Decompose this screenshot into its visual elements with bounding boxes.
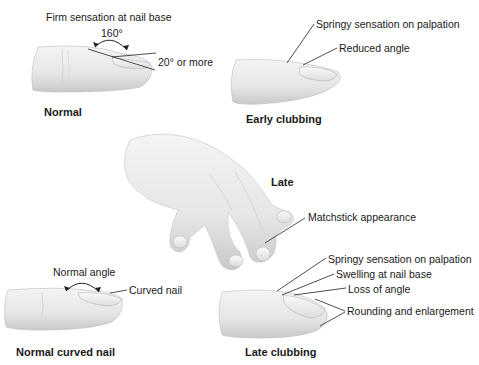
label-springy-sensation-late: Springy sensation on palpation (328, 253, 472, 265)
early-clubbing-finger (231, 24, 340, 104)
label-reduced-angle: Reduced angle (339, 42, 410, 54)
label-springy-sensation-early: Springy sensation on palpation (316, 18, 460, 30)
caption-early-clubbing: Early clubbing (246, 113, 322, 126)
late-clubbing-finger (219, 258, 346, 338)
label-rounding-enlargement: Rounding and enlargement (347, 305, 474, 317)
caption-normal: Normal (44, 106, 82, 119)
label-curved-nail: Curved nail (129, 284, 182, 296)
label-loss-of-angle: Loss of angle (348, 283, 410, 295)
normal-curved-finger (4, 283, 127, 330)
label-swelling-nail-base: Swelling at nail base (336, 268, 432, 280)
caption-late-clubbing: Late clubbing (245, 346, 317, 359)
label-firm-sensation: Firm sensation at nail base (46, 11, 171, 23)
label-160-degrees: 160° (101, 27, 123, 39)
normal-finger (32, 40, 156, 92)
label-20-degrees: 20° or more (158, 56, 213, 68)
late-hand (124, 134, 305, 270)
label-matchstick-appearance: Matchstick appearance (308, 211, 416, 223)
caption-late: Late (271, 176, 294, 189)
label-normal-angle: Normal angle (53, 266, 115, 278)
caption-normal-curved-nail: Normal curved nail (16, 346, 115, 359)
